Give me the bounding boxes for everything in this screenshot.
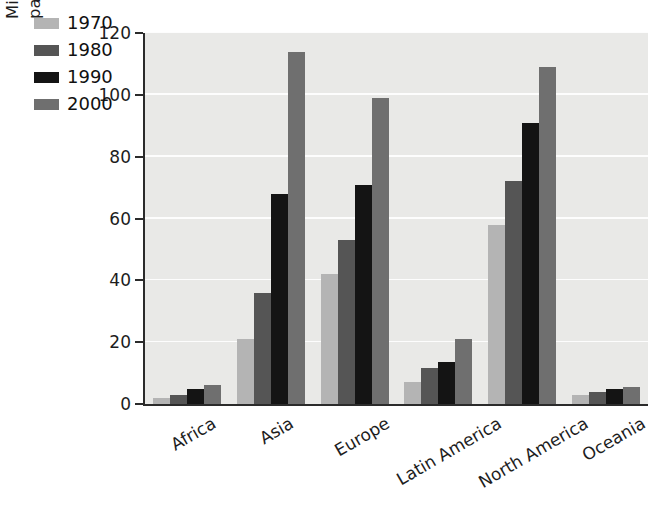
bar — [438, 362, 455, 404]
y-axis-tick-mark — [135, 279, 143, 281]
legend-item[interactable]: 1970 — [34, 12, 113, 34]
bar — [488, 225, 505, 404]
x-axis-tick-label: Asia — [256, 413, 297, 448]
x-axis-tick-slot: Africa — [143, 407, 227, 517]
bar — [572, 395, 589, 404]
bar — [372, 98, 389, 404]
bar — [589, 392, 606, 404]
legend-label: 2000 — [67, 95, 113, 113]
x-axis-tick-slot: North America — [478, 407, 562, 517]
bar — [355, 185, 372, 405]
y-axis-title-line-1: Millions of tons of paper and — [3, 0, 22, 19]
x-axis-tick-label: Oceania — [579, 413, 649, 465]
y-axis-tick-mark — [135, 403, 143, 405]
bar — [153, 398, 170, 404]
x-axis-tick-label: Europe — [331, 413, 393, 460]
legend-label: 1990 — [67, 68, 113, 86]
legend: 1970198019902000 — [34, 12, 113, 115]
bar — [522, 123, 539, 404]
bar — [623, 387, 640, 404]
y-axis-tick-mark — [135, 156, 143, 158]
y-axis-tick-mark — [135, 341, 143, 343]
bar — [321, 274, 338, 404]
bar-group — [145, 33, 229, 404]
legend-item[interactable]: 2000 — [34, 93, 113, 115]
bar — [187, 389, 204, 404]
legend-swatch — [34, 72, 59, 83]
legend-swatch — [34, 99, 59, 110]
legend-label: 1980 — [67, 41, 113, 59]
x-axis-tick-slot: Asia — [227, 407, 311, 517]
bar — [170, 395, 187, 404]
bar — [271, 194, 288, 404]
bar-group — [313, 33, 397, 404]
bar — [505, 181, 522, 404]
y-axis-tick-label: 60 — [21, 209, 131, 229]
bar — [338, 240, 355, 404]
bar — [606, 389, 623, 404]
bar — [288, 52, 305, 404]
bar — [254, 293, 271, 404]
y-axis-tick-mark — [135, 32, 143, 34]
legend-label: 1970 — [67, 14, 113, 32]
y-axis-tick-mark — [135, 218, 143, 220]
x-axis-tick-slot: Latin America — [394, 407, 478, 517]
legend-item[interactable]: 1980 — [34, 39, 113, 61]
y-axis-tick-label: 40 — [21, 270, 131, 290]
legend-swatch — [34, 45, 59, 56]
bar — [204, 385, 221, 404]
bar-group — [229, 33, 313, 404]
legend-item[interactable]: 1990 — [34, 66, 113, 88]
bar-groups — [145, 33, 648, 404]
x-axis-tick-slot: Europe — [311, 407, 395, 517]
bar — [421, 368, 438, 404]
y-axis-tick-mark — [135, 94, 143, 96]
legend-swatch — [34, 18, 59, 29]
bar — [539, 67, 556, 404]
bar — [237, 339, 254, 404]
x-axis-tick-slot: Oceania — [562, 407, 646, 517]
plot-area — [143, 33, 648, 406]
y-axis-tick-label: 20 — [21, 332, 131, 352]
x-axis-tick-label: Africa — [167, 413, 219, 455]
chart-page: Millions of tons of paper and paperboard… — [0, 0, 669, 522]
x-axis-ticks: AfricaAsiaEuropeLatin AmericaNorth Ameri… — [143, 407, 646, 517]
bar — [404, 382, 421, 404]
bar-group — [480, 33, 564, 404]
bar-group — [396, 33, 480, 404]
bar — [455, 339, 472, 404]
bar-group — [564, 33, 648, 404]
y-axis-tick-label: 0 — [21, 394, 131, 414]
y-axis-tick-label: 80 — [21, 147, 131, 167]
